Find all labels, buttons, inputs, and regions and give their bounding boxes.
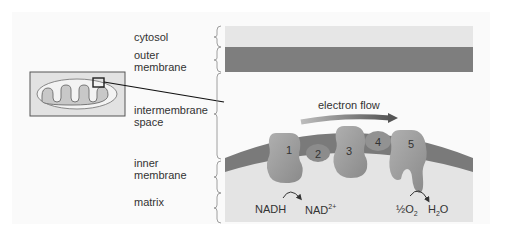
label-cytosol: cytosol: [134, 31, 168, 43]
label-inner-membrane: inner membrane: [134, 157, 187, 181]
electron-flow-arrow: [301, 113, 398, 123]
complex-1-number: 1: [286, 144, 292, 156]
half-o2-label: ½O2: [396, 203, 418, 220]
electron-flow-label: electron flow: [318, 99, 380, 111]
complex-2-number: 2: [315, 148, 321, 160]
complex-3-number: 3: [346, 145, 352, 157]
nad-label: NAD2+: [305, 201, 336, 216]
region-braces: [214, 26, 221, 223]
label-intermembrane-space: intermembrane space: [134, 104, 208, 128]
cytosol-band: [225, 26, 473, 47]
label-outer-membrane: outer membrane: [134, 49, 187, 73]
diagram-canvas: [0, 0, 505, 237]
outer-membrane-band: [225, 47, 473, 72]
h2o-label: H2O: [428, 203, 448, 220]
nadh-label: NADH: [255, 203, 286, 215]
label-matrix: matrix: [134, 196, 164, 208]
complex-4-number: 4: [375, 136, 381, 148]
complex-5-number: 5: [408, 138, 414, 150]
complex-1: [267, 133, 303, 183]
